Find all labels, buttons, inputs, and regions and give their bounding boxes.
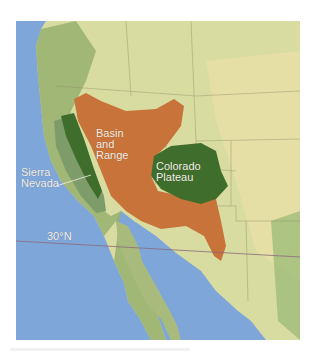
map-frame: Basin and Range Colorado Plateau Sierra … — [16, 21, 300, 340]
latitude-label: 30°N — [47, 231, 72, 242]
sierra-nevada-label: Sierra Nevada — [21, 167, 59, 189]
basin-and-range-label: Basin and Range — [96, 128, 128, 161]
colorado-plateau-label: Colorado Plateau — [156, 161, 201, 183]
caption-bleed — [10, 348, 190, 351]
